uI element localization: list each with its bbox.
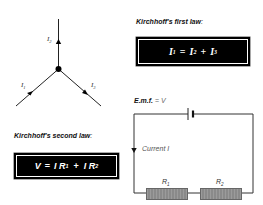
circuit-diagram (0, 0, 263, 205)
label-r2: R2 (216, 178, 224, 187)
resistor-r1 (146, 188, 188, 200)
label-r1: R1 (162, 178, 170, 187)
current-arrow-down-icon (131, 148, 136, 153)
resistor-r2 (200, 188, 242, 200)
current-label: Current I (142, 145, 169, 152)
wire-left (134, 114, 188, 193)
